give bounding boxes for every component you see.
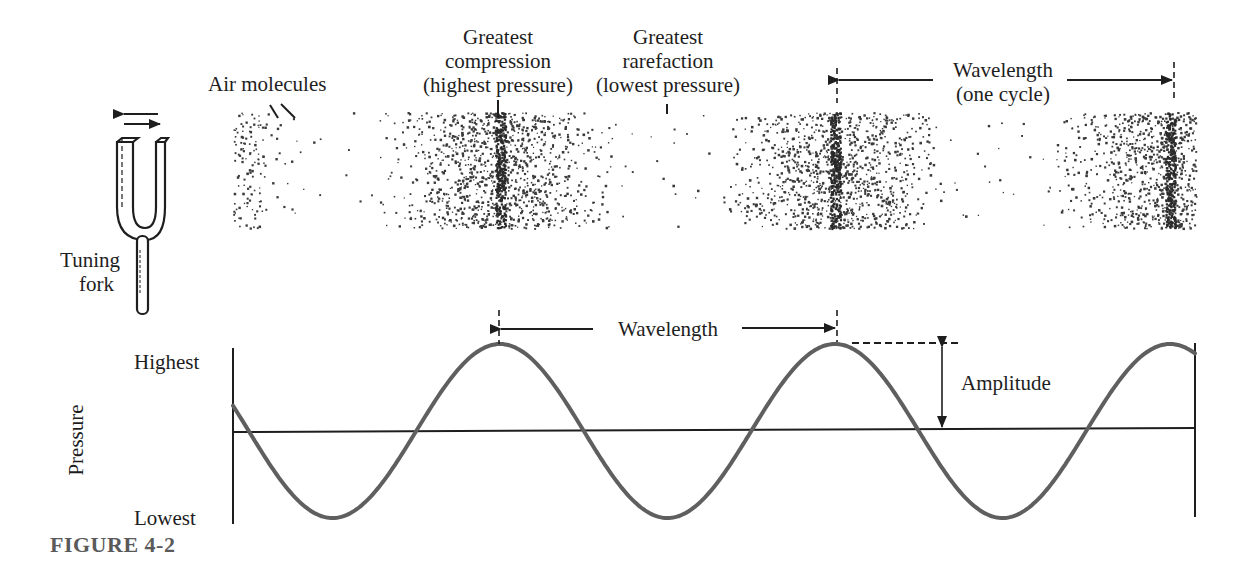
y-axis-label: Pressure — [64, 404, 88, 475]
double-arrow-left-right-icon — [124, 114, 160, 124]
amplitude-dimension — [852, 343, 960, 427]
wave-wavelength-label: Wavelength — [598, 317, 738, 341]
figure-caption: FIGURE 4-2 — [50, 532, 175, 558]
air-molecule-band — [233, 112, 1197, 230]
rarefaction-label-line3: (lowest pressure) — [558, 73, 778, 97]
air-molecule-pointer-icon — [270, 104, 295, 118]
tuning-fork-icon — [117, 138, 168, 314]
tuning-fork-label-line1: Tuning — [44, 248, 120, 272]
y-tick-highest: Highest — [134, 350, 199, 374]
tuning-fork-label: Tuning fork — [44, 248, 120, 296]
top-wavelength-label-line1: Wavelength — [940, 58, 1066, 82]
top-wavelength-label-line2: (one cycle) — [940, 82, 1066, 106]
top-wavelength-label: Wavelength (one cycle) — [940, 58, 1066, 106]
air-molecules-label: Air molecules — [208, 72, 326, 96]
y-tick-lowest: Lowest — [134, 506, 196, 530]
amplitude-label: Amplitude — [961, 371, 1051, 395]
rarefaction-label-line2: rarefaction — [558, 49, 778, 73]
rarefaction-label: Greatest rarefaction (lowest pressure) — [558, 25, 778, 97]
rarefaction-label-line1: Greatest — [558, 25, 778, 49]
tuning-fork-label-line2: fork — [44, 272, 120, 296]
